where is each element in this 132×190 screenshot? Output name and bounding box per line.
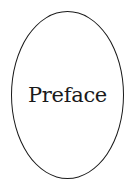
preface-title: Preface: [0, 83, 132, 107]
